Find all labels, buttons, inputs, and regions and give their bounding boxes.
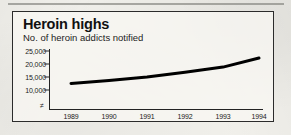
axis-break-icon: ≠: [40, 102, 44, 109]
x-tick-label: 1990: [101, 113, 116, 120]
chart-title: Heroin highs: [23, 16, 109, 32]
chart-subtitle: No. of heroin addicts notified: [23, 32, 143, 43]
x-tick-label: 1991: [139, 113, 154, 120]
x-tick-label: 1989: [63, 113, 78, 120]
y-tick-label: 10,000: [25, 87, 46, 94]
chart-frame: Heroin highs No. of heroin addicts notif…: [12, 11, 274, 122]
y-tick-label: 25,000: [25, 48, 46, 55]
page-top-rule: [8, 3, 284, 5]
chart-figure: Heroin highs No. of heroin addicts notif…: [0, 0, 291, 135]
y-tick-label: 20,000: [25, 61, 46, 68]
x-tick-label: 1992: [177, 113, 192, 120]
y-tick-label: 15,000: [25, 74, 46, 81]
x-tick-label: 1993: [215, 113, 230, 120]
plot-area: ≠ 25,000 20,000 15,000 10,000 1989 1990 …: [49, 51, 263, 96]
x-tick-label: 1994: [251, 113, 266, 120]
series-line: [49, 45, 263, 111]
